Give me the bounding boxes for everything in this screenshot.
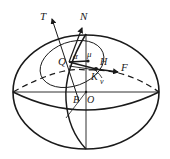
ellipsoid-diagram: T N Q α μ H F K v B O — [0, 0, 170, 159]
label-b: B — [73, 94, 79, 105]
label-f: F — [120, 61, 128, 73]
point-o — [85, 91, 87, 93]
label-q: Q — [58, 55, 66, 67]
label-t: T — [40, 10, 47, 22]
label-k: K — [90, 71, 99, 82]
point-mu — [86, 59, 89, 62]
label-mu: μ — [86, 49, 92, 59]
label-v: v — [100, 77, 104, 86]
label-n: N — [79, 10, 88, 22]
label-alpha: α — [73, 51, 78, 61]
label-o: O — [87, 94, 94, 105]
label-h: H — [99, 56, 108, 67]
